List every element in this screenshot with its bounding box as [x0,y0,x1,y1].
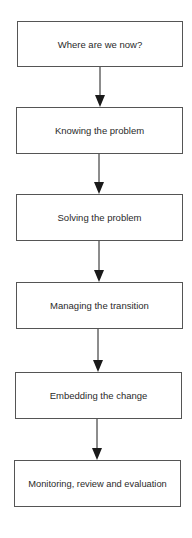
down-arrow-icon [89,154,109,194]
step-label: Solving the problem [58,212,142,223]
down-arrow-icon [87,419,107,460]
step-box-knowing-the-problem: Knowing the problem [16,107,183,154]
step-label: Monitoring, review and evaluation [28,479,167,489]
down-arrow-icon [88,329,108,372]
step-box-embedding-the-change: Embedding the change [15,372,182,419]
step-label: Knowing the problem [55,125,144,136]
step-box-solving-the-problem: Solving the problem [16,194,183,241]
down-arrow-icon [89,241,109,282]
step-box-monitoring-review-evaluation: Monitoring, review and evaluation [14,460,181,507]
step-label: Embedding the change [50,390,148,401]
step-label: Managing the transition [50,300,149,311]
step-box-managing-the-transition: Managing the transition [16,282,183,329]
down-arrow-icon [90,67,110,107]
step-label: Where are we now? [58,39,142,50]
step-box-where-are-we-now: Where are we now? [17,21,183,67]
